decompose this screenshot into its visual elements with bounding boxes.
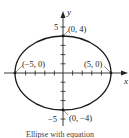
x-axis-label: x [123,76,128,86]
covertex-bottom-point [62,109,65,112]
point-label-left: (−5, 0) [22,59,45,69]
point-label-bottom: (0, −4) [69,113,92,123]
y-axis-label: y [66,7,71,17]
figure-caption: Ellipse with equation [26,130,94,138]
vertex-right-point [110,72,113,75]
y-axis-arrow-icon [61,11,66,18]
tick-label-5: 5 [54,22,58,32]
leader-right [104,66,110,72]
vertex-left-point [14,72,17,75]
point-label-right: (5, 0) [84,59,103,69]
x-axis-arrow-icon [121,71,128,76]
ellipse-diagram: y x 5 −5 (0, 4) (0, −4) (−5, 0) (5, 0) E… [0,0,129,138]
covertex-top-point [62,35,65,38]
tick-label-neg5: −5 [48,114,57,124]
point-label-top: (0, 4) [68,24,87,34]
leader-bottom [64,111,68,115]
